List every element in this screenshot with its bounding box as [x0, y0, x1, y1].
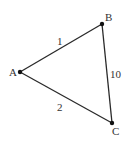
edge-weight-a-c: 2	[57, 101, 63, 113]
graph-diagram: A B C 1 10 2	[0, 0, 128, 141]
node-label-b: B	[105, 11, 112, 23]
node-a	[18, 70, 22, 74]
edge-weight-a-b: 1	[57, 35, 63, 47]
node-b	[100, 22, 104, 26]
node-label-a: A	[9, 66, 17, 78]
edge-a-c	[20, 72, 112, 123]
node-label-c: C	[112, 125, 119, 137]
edge-weight-b-c: 10	[110, 68, 122, 80]
edge-a-b	[20, 24, 102, 72]
